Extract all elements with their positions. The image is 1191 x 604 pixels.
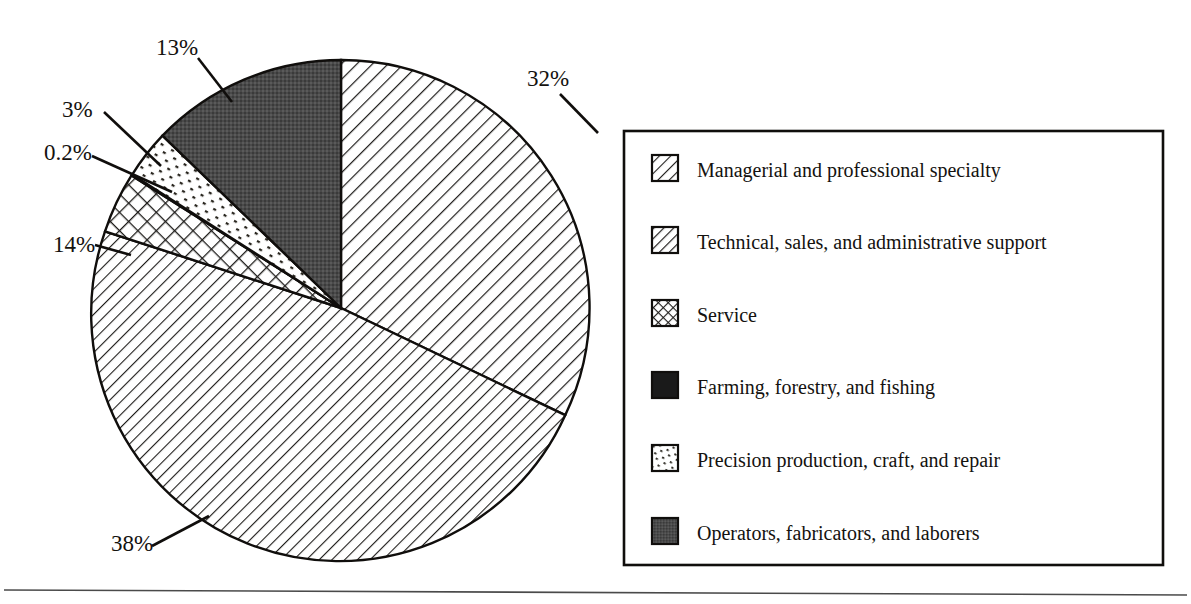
pie-label-32: 32% [527, 66, 569, 91]
legend-swatch-managerial [652, 155, 678, 181]
legend-swatch-service [652, 300, 678, 326]
legend-item-managerial[interactable]: Managerial and professional specialty [652, 155, 1001, 182]
pie-label-0-2: 0.2% [44, 140, 92, 165]
pie-slices [91, 60, 589, 561]
legend-item-service[interactable]: Service [652, 300, 757, 326]
leader-line-38 [152, 516, 209, 546]
legend-swatch-precision [652, 445, 678, 471]
legend-label-managerial: Managerial and professional specialty [697, 159, 1001, 182]
legend-label-technical: Technical, sales, and administrative sup… [697, 231, 1047, 254]
legend-label-service: Service [697, 304, 757, 326]
chart-canvas: 32% 38% 14% 0.2% 3% 13% Managerial and p… [0, 0, 1191, 604]
leader-line-3 [104, 112, 161, 166]
legend-box [624, 131, 1163, 565]
legend-item-operators[interactable]: Operators, fabricators, and laborers [652, 518, 980, 545]
legend: Managerial and professional specialty Te… [624, 131, 1163, 565]
legend-label-precision: Precision production, craft, and repair [697, 449, 1001, 472]
bottom-divider-rule [4, 590, 1187, 595]
pie-chart-figure: 32% 38% 14% 0.2% 3% 13% Managerial and p… [0, 0, 1191, 604]
legend-label-operators: Operators, fabricators, and laborers [697, 522, 980, 545]
legend-label-farming: Farming, forestry, and fishing [697, 376, 935, 399]
legend-item-technical[interactable]: Technical, sales, and administrative sup… [652, 227, 1047, 254]
legend-item-farming[interactable]: Farming, forestry, and fishing [652, 372, 935, 399]
legend-item-precision[interactable]: Precision production, craft, and repair [652, 445, 1001, 472]
legend-swatch-technical [652, 227, 678, 253]
leader-line-32 [560, 94, 598, 133]
pie-label-14: 14% [53, 232, 95, 257]
pie-label-3: 3% [62, 97, 93, 122]
legend-swatch-operators [652, 518, 678, 544]
legend-swatch-farming [652, 372, 678, 398]
pie-label-38: 38% [111, 531, 153, 556]
pie-label-13: 13% [156, 35, 198, 60]
